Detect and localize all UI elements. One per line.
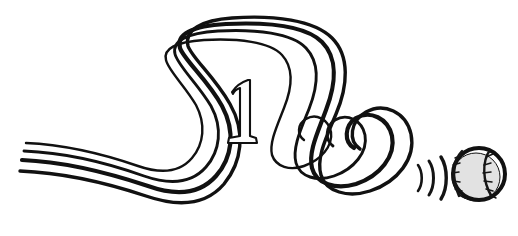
ball-stitch — [452, 172, 459, 173]
background — [0, 0, 518, 236]
ball-stitch — [453, 181, 460, 182]
ball-stitch — [484, 181, 492, 182]
illustration-canvas — [0, 0, 518, 236]
pitch-trajectory-illustration — [0, 0, 518, 236]
baseball — [452, 148, 505, 201]
ball-stitch — [483, 172, 491, 173]
